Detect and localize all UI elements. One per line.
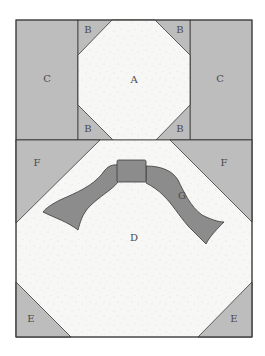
bow-knot <box>117 160 146 182</box>
label-a: A <box>129 74 138 85</box>
label-b-top-right: B <box>176 24 183 35</box>
quilt-block-diagram: A B B B B C C F F G D E E <box>0 0 265 356</box>
label-c-right: C <box>216 73 224 84</box>
label-e-right: E <box>230 313 237 324</box>
label-e-left: E <box>27 313 34 324</box>
label-f-left: F <box>34 157 41 168</box>
label-g: G <box>178 190 186 201</box>
label-f-right: F <box>221 157 228 168</box>
label-b-bottom-left: B <box>84 123 91 134</box>
label-d: D <box>130 232 138 243</box>
label-c-left: C <box>43 73 51 84</box>
label-b-top-left: B <box>84 24 91 35</box>
label-b-bottom-right: B <box>176 123 183 134</box>
